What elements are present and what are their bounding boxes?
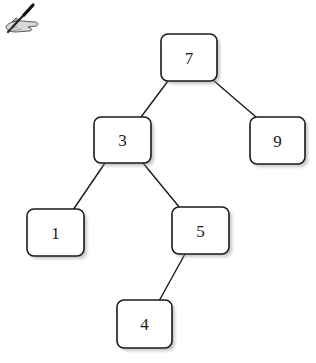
edge-5-4 xyxy=(159,254,185,301)
tree-node: 4 xyxy=(117,300,175,351)
edge-3-5 xyxy=(143,163,180,208)
tree-node: 5 xyxy=(172,207,232,257)
node-label: 9 xyxy=(273,132,282,151)
node-label: 7 xyxy=(185,49,194,68)
node-label: 4 xyxy=(140,315,149,334)
tree-diagram: 739154 xyxy=(0,0,316,363)
edge-7-3 xyxy=(141,81,168,117)
tree-node: 7 xyxy=(161,34,220,84)
tree-node: 3 xyxy=(94,117,154,166)
edge-7-9 xyxy=(213,80,256,117)
node-label: 3 xyxy=(118,131,127,150)
edge-3-1 xyxy=(73,163,105,210)
node-label: 1 xyxy=(51,224,60,243)
tree-node: 1 xyxy=(27,209,87,259)
tree-node: 9 xyxy=(250,117,308,167)
node-label: 5 xyxy=(196,222,205,241)
